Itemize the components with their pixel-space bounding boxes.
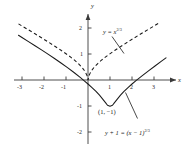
y-tick-label-2: 2 — [79, 25, 82, 31]
x-tick-label-neg1: -1 — [61, 84, 66, 90]
x-axis-label: x — [178, 77, 181, 84]
axes — [14, 14, 176, 144]
y-tick-label-neg2: -2 — [77, 129, 82, 135]
leader-line-dashed-label — [112, 37, 124, 54]
x-tick-label-neg3: -3 — [17, 84, 22, 90]
graph-figure: -3 -2 -1 1 2 3 2 1 -1 -2 x y y = x2/3 y … — [0, 0, 191, 151]
plot-canvas — [0, 0, 191, 151]
curve-solid-shifted — [19, 35, 167, 106]
equation-label-dashed-curve: y = x2/3 — [103, 28, 122, 36]
x-tick-label-1: 1 — [108, 84, 111, 90]
cusp-point-label: (1, −1) — [98, 109, 116, 116]
y-axis-arrow — [86, 14, 91, 20]
x-axis-arrow — [170, 78, 176, 83]
equation-label-solid-curve: y + 1 = (x − 1)2/3 — [105, 129, 150, 137]
y-tick-label-1: 1 — [80, 51, 83, 57]
y-axis-label: y — [91, 3, 94, 10]
equation-label-solid-base: y + 1 = (x − 1) — [105, 129, 145, 136]
y-tick-label-neg1: -1 — [77, 103, 82, 109]
equation-label-dashed-exponent: 2/3 — [116, 27, 121, 32]
leader-line-solid-label — [126, 93, 138, 119]
curve-dashed-x-pow-two-thirds — [19, 22, 161, 80]
x-tick-label-2: 2 — [130, 84, 133, 90]
x-tick-label-3: 3 — [152, 84, 155, 90]
equation-label-solid-exponent: 2/3 — [145, 128, 150, 133]
x-tick-label-neg2: -2 — [39, 84, 44, 90]
equation-label-dashed-base: y = x — [103, 28, 116, 35]
